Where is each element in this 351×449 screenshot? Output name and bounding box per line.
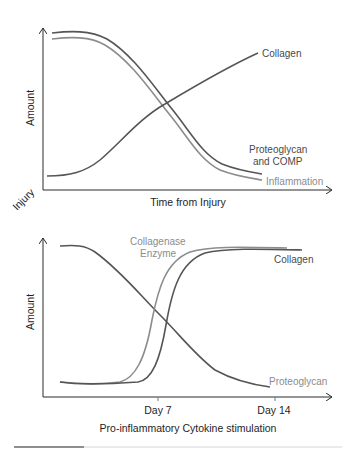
bottom-chart: Collagenase Enzyme Collagen Proteoglycan… bbox=[24, 236, 332, 434]
top-x-axis-title: Time from Injury bbox=[150, 196, 226, 208]
tick-label-day14: Day 14 bbox=[257, 404, 290, 416]
bottom-collagenase-curve bbox=[60, 247, 287, 383]
top-label-proteoglycan-line1: Proteoglycan bbox=[249, 144, 307, 155]
top-proteoglycan-curve bbox=[52, 32, 262, 174]
top-label-collagen: Collagen bbox=[262, 48, 301, 59]
top-label-proteoglycan-line2: and COMP bbox=[253, 156, 303, 167]
top-origin-label: Injury bbox=[10, 185, 37, 212]
bottom-label-collagen: Collagen bbox=[274, 254, 313, 265]
bottom-proteoglycan-curve bbox=[60, 246, 270, 387]
figure: Collagen Proteoglycan and COMP Inflammat… bbox=[0, 0, 351, 449]
bottom-x-axis-title: Pro-inflammatory Cytokine stimulation bbox=[100, 422, 277, 434]
bottom-label-collagenase-line1: Collagenase bbox=[130, 236, 186, 247]
top-y-axis-title: Amount bbox=[24, 90, 36, 126]
top-collagen-curve bbox=[47, 53, 258, 176]
top-chart: Collagen Proteoglycan and COMP Inflammat… bbox=[10, 28, 332, 212]
bottom-label-proteoglycan: Proteoglycan bbox=[269, 376, 327, 387]
bottom-y-axis-title: Amount bbox=[24, 294, 36, 330]
tick-label-day7: Day 7 bbox=[144, 404, 172, 416]
bottom-collagen-curve bbox=[60, 249, 302, 384]
bottom-label-collagenase-line2: Enzyme bbox=[140, 248, 177, 259]
top-label-inflammation: Inflammation bbox=[266, 176, 323, 187]
